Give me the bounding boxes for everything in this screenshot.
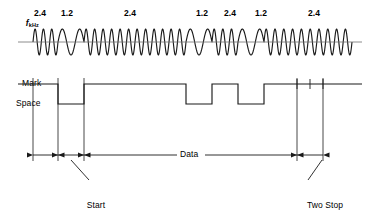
- figure-canvas: fkHz 2.4 1.2 2.4 1.2 2.4 1.2 2.4 Mark Sp…: [0, 0, 381, 221]
- dimension-annotations: [33, 78, 323, 161]
- serial-data-waveform: [18, 79, 362, 104]
- leader-line-start-bit: [71, 160, 89, 180]
- diagram-vectors: [0, 0, 381, 221]
- leader-line-two-stop-bits: [308, 160, 322, 180]
